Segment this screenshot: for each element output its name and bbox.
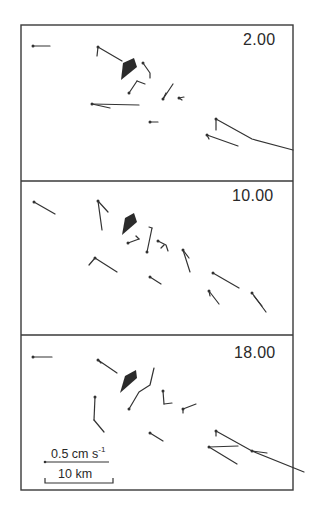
vector-origin-dot xyxy=(32,45,35,48)
island-shape xyxy=(122,213,137,235)
vector-tick xyxy=(136,236,139,239)
vector-origin-dot xyxy=(162,390,165,393)
current-vector xyxy=(209,291,219,304)
panel-time-label-2: 10.00 xyxy=(232,187,274,205)
vector-tick xyxy=(164,403,172,404)
panel-time-label-3: 18.00 xyxy=(234,344,276,362)
vector-origin-dot xyxy=(212,272,215,275)
current-vector xyxy=(207,135,238,146)
vector-tick xyxy=(89,258,95,265)
vector-origin-dot xyxy=(142,62,145,65)
current-vector xyxy=(92,104,139,105)
island-shape xyxy=(120,370,137,393)
vector-plot-canvas xyxy=(0,0,315,513)
vector-origin-dot xyxy=(33,201,36,204)
current-vector xyxy=(216,119,293,150)
vector-origin-dot xyxy=(149,121,152,124)
distance-scale-label: 10 km xyxy=(58,467,92,481)
vector-tick xyxy=(149,227,152,228)
vector-origin-dot xyxy=(128,408,131,411)
current-vector xyxy=(183,404,196,409)
panel-time-label-1: 2.00 xyxy=(243,31,275,49)
current-vector xyxy=(143,63,150,78)
vector-tick xyxy=(209,446,238,447)
current-vector-figure: 2.00 10.00 18.00 0.5 cm s-1 10 km xyxy=(0,0,315,513)
current-vector xyxy=(98,360,117,373)
vector-origin-dot xyxy=(127,242,130,245)
vector-tick xyxy=(161,245,164,248)
current-vector xyxy=(147,228,152,252)
current-vector xyxy=(150,277,161,284)
current-vector xyxy=(94,397,95,420)
current-vector xyxy=(213,273,239,288)
current-vector xyxy=(150,433,163,441)
vector-origin-dot xyxy=(94,396,97,399)
vector-origin-dot xyxy=(32,356,35,359)
vector-origin-dot xyxy=(251,450,254,453)
current-vector xyxy=(163,391,164,404)
current-vector xyxy=(98,47,122,61)
current-vector xyxy=(95,258,117,272)
current-vector xyxy=(129,81,137,93)
vector-tick xyxy=(254,296,262,306)
velocity-scale-label: 0.5 cm s-1 xyxy=(51,446,105,461)
vector-origin-dot xyxy=(251,292,254,295)
current-vector xyxy=(128,239,139,243)
vector-origin-dot xyxy=(157,240,160,243)
vector-origin-dot xyxy=(149,432,152,435)
velocity-scale-dot xyxy=(44,461,47,464)
vector-tick xyxy=(137,81,145,84)
current-vector xyxy=(183,250,190,272)
vector-origin-dot xyxy=(149,276,152,279)
island-shape xyxy=(121,58,137,80)
current-vector xyxy=(34,202,55,214)
figure-frame xyxy=(21,25,293,490)
vector-origin-dot xyxy=(146,251,149,254)
vector-tick xyxy=(97,47,98,56)
current-vector xyxy=(209,447,237,464)
vector-tick xyxy=(94,420,104,432)
vector-origin-dot xyxy=(128,92,131,95)
